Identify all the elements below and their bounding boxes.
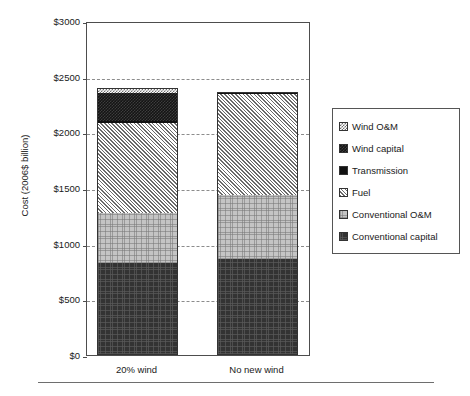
y-axis-tick-mark bbox=[83, 23, 87, 24]
legend-item-fuel[interactable]: Fuel bbox=[333, 181, 459, 203]
legend-swatch-icon bbox=[339, 166, 348, 175]
bar-1 bbox=[97, 21, 178, 355]
y-axis-tick-label: $1000 bbox=[22, 240, 80, 250]
x-axis-tick-label: 20% wind bbox=[87, 364, 187, 375]
legend-item-wind-capital[interactable]: Wind capital bbox=[333, 137, 459, 159]
y-axis-tick-mark bbox=[83, 357, 87, 358]
bar-2 bbox=[217, 21, 298, 355]
y-axis-tick-labels: $0$500$1000$1500$2000$2500$3000 bbox=[22, 0, 80, 396]
bar-segment bbox=[97, 263, 178, 355]
y-axis-tick-label: $3000 bbox=[22, 17, 80, 27]
y-axis-tick-mark bbox=[83, 79, 87, 80]
legend-swatch-icon bbox=[339, 210, 348, 219]
legend-item-label: Conventional O&M bbox=[352, 209, 432, 220]
legend-item-label: Fuel bbox=[352, 187, 370, 198]
y-axis-tick-label: $0 bbox=[22, 351, 80, 361]
y-axis-tick-label: $1500 bbox=[22, 184, 80, 194]
legend-item-wind-om[interactable]: Wind O&M bbox=[333, 115, 459, 137]
legend-swatch-icon bbox=[339, 144, 348, 153]
y-axis-tick-mark bbox=[83, 190, 87, 191]
legend-item-label: Wind O&M bbox=[352, 121, 398, 132]
legend-swatch-icon bbox=[339, 122, 348, 131]
bar-segment bbox=[217, 94, 298, 195]
y-axis-tick-label: $500 bbox=[22, 295, 80, 305]
y-axis-tick-label: $2000 bbox=[22, 128, 80, 138]
bar-segment bbox=[97, 121, 178, 123]
y-axis-tick-mark bbox=[83, 301, 87, 302]
legend-item-label: Wind capital bbox=[352, 143, 404, 154]
plot-area bbox=[86, 22, 310, 356]
footer-divider bbox=[38, 382, 434, 383]
x-axis-tick-label: No new wind bbox=[207, 364, 307, 375]
legend-swatch-icon bbox=[339, 232, 348, 241]
bar-segment bbox=[217, 195, 298, 259]
y-axis-tick-mark bbox=[83, 134, 87, 135]
legend-item-label: Conventional capital bbox=[352, 231, 438, 242]
legend-item-transmission[interactable]: Transmission bbox=[333, 159, 459, 181]
chart-figure: Cost (2006$ billion) $0$500$1000$1500$20… bbox=[0, 0, 470, 396]
legend-swatch-icon bbox=[339, 188, 348, 197]
bar-segment bbox=[97, 213, 178, 263]
y-axis-tick-mark bbox=[83, 246, 87, 247]
legend-item-label: Transmission bbox=[352, 165, 408, 176]
bar-segment bbox=[97, 93, 178, 121]
chart-legend: Wind O&MWind capitalTransmissionFuelConv… bbox=[332, 108, 460, 254]
bar-segment bbox=[217, 92, 298, 94]
legend-item-conv-capital[interactable]: Conventional capital bbox=[333, 225, 459, 247]
bar-segment bbox=[97, 123, 178, 212]
bar-segment bbox=[97, 88, 178, 93]
legend-item-conv-om[interactable]: Conventional O&M bbox=[333, 203, 459, 225]
bar-segment bbox=[217, 259, 298, 355]
y-axis-tick-label: $2500 bbox=[22, 73, 80, 83]
